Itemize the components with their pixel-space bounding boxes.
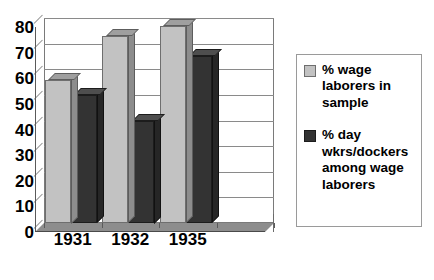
y-axis-tick-label: 60 [0, 70, 34, 87]
bar [45, 80, 71, 224]
y-axis-tick-label: 50 [0, 95, 34, 112]
x-axis-tick-mark [217, 223, 218, 228]
bar [160, 26, 186, 223]
bar-side-face [186, 19, 193, 223]
bar-front-face [102, 36, 128, 223]
x-axis-tick-labels: 193119321935 [44, 223, 274, 263]
bar-side-face [97, 88, 104, 223]
y-axis-tick-label: 30 [0, 147, 34, 164]
bar-front-face [160, 26, 186, 223]
y-axis-line [35, 27, 36, 232]
bar-front-face [45, 80, 71, 224]
y-axis-tick-label: 80 [0, 19, 34, 36]
chart-plot-region: 80706050403020100 193119321935 [0, 0, 290, 280]
y-axis-tick-label: 0 [0, 224, 34, 241]
x-axis-tick-mark [102, 223, 103, 228]
plot-area [44, 18, 274, 223]
bar-side-face [212, 49, 219, 223]
axis-depth-tick [34, 14, 43, 23]
legend-item-label: % day wkrs/dockers among wage laborers [322, 127, 415, 193]
bar-series-container [44, 18, 274, 223]
legend-item-label: % wage laborers in sample [322, 62, 415, 111]
x-axis-tick-mark [159, 223, 160, 228]
bar-side-face [128, 29, 135, 223]
dark-gray-swatch-icon [304, 130, 316, 142]
x-axis-tick-label: 1935 [169, 230, 207, 250]
y-axis-tick-label: 70 [0, 44, 34, 61]
legend-item-day-workers: % day wkrs/dockers among wage laborers [304, 127, 415, 193]
y-axis-tick-label: 20 [0, 172, 34, 189]
bar [102, 36, 128, 223]
x-axis-tick-label: 1931 [54, 230, 92, 250]
x-axis-tick-mark [44, 223, 45, 228]
light-gray-swatch-icon [304, 65, 316, 77]
y-axis-tick-label: 40 [0, 121, 34, 138]
y-axis-tick-label: 10 [0, 198, 34, 215]
x-axis-tick-mark [274, 223, 275, 228]
plot-left-depth-wall [35, 18, 44, 223]
chart-legend: % wage laborers in sample % day wkrs/doc… [296, 54, 422, 227]
bar-side-face [154, 114, 161, 224]
legend-item-wage-laborers: % wage laborers in sample [304, 62, 415, 111]
x-axis-tick-label: 1932 [111, 230, 149, 250]
bar-chart-figure: 80706050403020100 193119321935 % wage la… [0, 0, 434, 280]
bar-side-face [71, 73, 78, 224]
y-axis-tick-labels: 80706050403020100 [0, 0, 34, 280]
